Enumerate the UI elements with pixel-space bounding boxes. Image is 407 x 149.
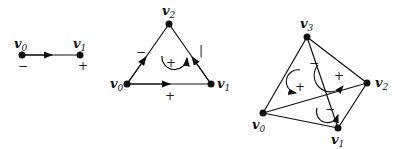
- label-v1: v1: [73, 36, 86, 53]
- face-sign: +: [295, 80, 305, 94]
- label-v2: v2: [162, 3, 176, 20]
- triangle-simplex: v0 v1 v2 − | + +: [110, 3, 230, 103]
- sign-bottom: +: [165, 89, 175, 103]
- label-v2: v2: [375, 75, 389, 92]
- label-v1: v1: [217, 76, 230, 93]
- face-sign: −: [325, 102, 335, 116]
- simplex-orientation-figure: v0 v1 − + v0 v1 v2 − | + +: [0, 0, 407, 149]
- label-v0: v0: [14, 36, 28, 53]
- label-v0: v0: [252, 117, 266, 134]
- sign-minus: −: [18, 59, 28, 73]
- label-v3: v3: [300, 16, 314, 33]
- sign-left: −: [136, 45, 146, 59]
- face-sign: −: [309, 56, 319, 70]
- sign-right: |: [199, 44, 203, 58]
- sign-plus: +: [78, 59, 88, 73]
- edge-simplex: v0 v1 − +: [14, 36, 88, 73]
- tetrahedron-simplex: v0 v1 v2 v3 − + + −: [252, 16, 389, 149]
- label-v1: v1: [331, 132, 344, 149]
- label-v0: v0: [110, 76, 124, 93]
- face-sign: +: [334, 69, 344, 83]
- sign-center: +: [166, 56, 176, 70]
